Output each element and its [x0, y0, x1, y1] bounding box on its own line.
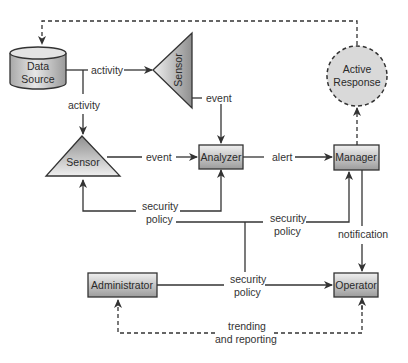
edge-label-event-top: event — [206, 92, 232, 104]
edge-label-trending-1: trending — [228, 320, 266, 332]
node-sensor-top[interactable]: Sensor — [153, 33, 192, 108]
edge-policy-to-manager — [176, 172, 349, 272]
edge-label-policy-manager-2: policy — [274, 225, 302, 237]
edge-label-event-left: event — [146, 151, 172, 163]
manager-label: Manager — [335, 151, 377, 163]
node-administrator[interactable]: Administrator — [88, 273, 157, 297]
edge-label-activity-right: activity — [91, 64, 124, 76]
edge-active-response-to-data-source — [42, 21, 357, 45]
ids-architecture-diagram: activity activity event event alert secu… — [0, 0, 408, 363]
edge-label-policy-operator-2: policy — [234, 286, 262, 298]
edge-label-alert: alert — [272, 151, 293, 163]
edge-label-policy-sensor-1: security — [142, 200, 179, 212]
data-source-label-2: Source — [21, 73, 54, 85]
sensor-top-label: Sensor — [172, 53, 184, 87]
edge-label-policy-manager-1: security — [270, 212, 307, 224]
node-active-response[interactable]: Active Response — [327, 46, 387, 106]
edge-label-policy-operator-1: security — [230, 273, 267, 285]
analyzer-label: Analyzer — [201, 151, 242, 163]
sensor-left-label: Sensor — [66, 156, 100, 168]
node-data-source[interactable]: Data Source — [10, 47, 66, 89]
node-manager[interactable]: Manager — [334, 145, 379, 170]
edge-event-top-to-analyzer — [192, 98, 221, 143]
edge-label-notification: notification — [338, 228, 388, 240]
data-source-label-1: Data — [27, 60, 49, 72]
edge-label-policy-sensor-2: policy — [146, 213, 174, 225]
active-response-label-2: Response — [333, 76, 380, 88]
node-analyzer[interactable]: Analyzer — [199, 145, 243, 169]
node-sensor-left[interactable]: Sensor — [46, 136, 120, 176]
node-operator[interactable]: Operator — [334, 273, 378, 297]
administrator-label: Administrator — [91, 279, 153, 291]
operator-label: Operator — [335, 279, 377, 291]
active-response-label-1: Active — [343, 63, 372, 75]
edge-label-trending-2: and reporting — [215, 333, 277, 345]
edge-label-activity-down: activity — [68, 99, 101, 111]
